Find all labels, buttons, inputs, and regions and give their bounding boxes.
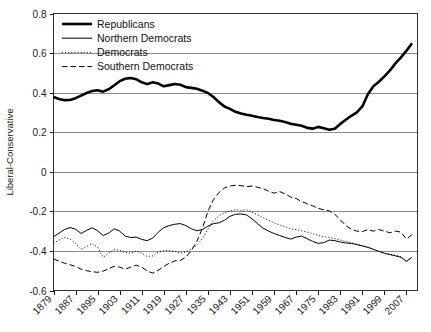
legend-label: Southern Democrats: [97, 60, 193, 72]
y-tick-label: 0.2: [33, 127, 47, 138]
y-tick-label: 0: [41, 167, 47, 178]
y-tick-label: -0.2: [29, 206, 47, 217]
y-tick-label: -0.4: [29, 246, 47, 257]
liberal-conservative-line-chart: 0.80.60.40.20-0.2-0.4-0.6 18791887189519…: [0, 0, 431, 332]
y-tick-label: 0.8: [33, 9, 47, 20]
legend-label: Northern Democrats: [97, 32, 192, 44]
legend-label: Republicans: [97, 18, 155, 30]
legend-label: Democrats: [97, 46, 148, 58]
chart-container: 0.80.60.40.20-0.2-0.4-0.6 18791887189519…: [0, 0, 431, 332]
y-tick-label: 0.6: [33, 48, 47, 59]
y-axis-title: Liberal-Conservative: [4, 108, 15, 195]
chart-background: [0, 0, 431, 332]
y-tick-label: 0.4: [33, 88, 47, 99]
